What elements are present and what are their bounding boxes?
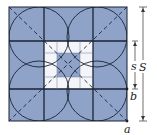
label-S: S	[139, 61, 147, 74]
arrow-S-bottom	[141, 116, 145, 120]
label-b: b	[130, 90, 137, 103]
arrow-s-bottom	[133, 84, 137, 88]
arrow-s-top	[133, 42, 137, 46]
arrow-S-top	[141, 8, 145, 12]
point-b	[126, 88, 129, 91]
square-circles-diagram: S s b a	[0, 0, 157, 135]
label-s: s	[131, 60, 137, 73]
label-a: a	[124, 123, 131, 135]
point-a	[126, 120, 129, 123]
